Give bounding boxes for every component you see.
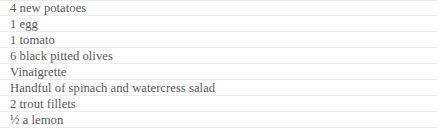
list-item: 6 black pitted olives (0, 48, 444, 64)
list-item: 4 new potatoes (0, 0, 444, 16)
list-item: Vinaigrette (0, 64, 444, 80)
ingredient-text: ½ a lemon (10, 112, 63, 128)
list-item: 2 trout fillets (0, 96, 444, 112)
list-item: Handful of spinach and watercress salad (0, 80, 444, 96)
list-item: ½ a lemon (0, 112, 444, 128)
ingredient-list: 4 new potatoes 1 egg 1 tomato 6 black pi… (0, 0, 444, 128)
ingredient-text: 1 egg (10, 16, 38, 32)
ingredient-text: Handful of spinach and watercress salad (10, 80, 215, 96)
ingredient-text: Vinaigrette (10, 64, 66, 80)
ingredient-text: 6 black pitted olives (10, 48, 113, 64)
list-item: 1 tomato (0, 32, 444, 48)
ingredient-text: 1 tomato (10, 32, 55, 48)
ingredient-text: 2 trout fillets (10, 96, 76, 112)
ingredients-panel: 4 new potatoes 1 egg 1 tomato 6 black pi… (0, 0, 444, 139)
list-item: 1 egg (0, 16, 444, 32)
ingredient-text: 4 new potatoes (10, 0, 86, 16)
